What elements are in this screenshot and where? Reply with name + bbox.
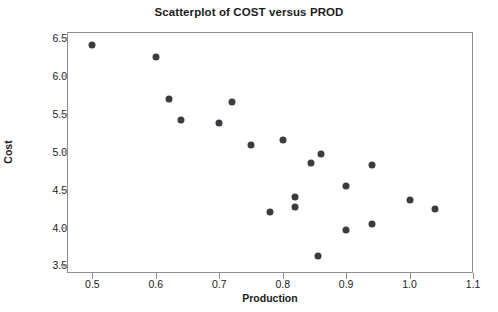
y-tick-mark bbox=[61, 227, 67, 228]
y-tick-mark bbox=[61, 75, 67, 76]
x-tick-label: 0.6 bbox=[136, 278, 176, 290]
plot-area-frame bbox=[67, 32, 473, 273]
y-axis-label: Cost bbox=[2, 140, 14, 163]
x-tick-label: 0.7 bbox=[199, 278, 239, 290]
scatterplot-figure: Scatterplot of COST versus PROD 3.54.04.… bbox=[0, 0, 498, 312]
x-tick-label: 0.5 bbox=[72, 278, 112, 290]
y-tick-mark bbox=[61, 189, 67, 190]
chart-title: Scatterplot of COST versus PROD bbox=[0, 6, 498, 18]
x-tick-mark bbox=[346, 273, 347, 279]
x-tick-label: 1.1 bbox=[453, 278, 493, 290]
x-tick-mark bbox=[156, 273, 157, 279]
x-tick-mark bbox=[410, 273, 411, 279]
x-tick-label: 0.8 bbox=[263, 278, 303, 290]
y-tick-mark bbox=[61, 151, 67, 152]
y-tick-mark bbox=[61, 113, 67, 114]
y-tick-mark bbox=[61, 265, 67, 266]
x-tick-mark bbox=[92, 273, 93, 279]
x-axis-label: Production bbox=[67, 292, 473, 304]
y-tick-mark bbox=[61, 38, 67, 39]
x-tick-mark bbox=[219, 273, 220, 279]
x-tick-label: 0.9 bbox=[326, 278, 366, 290]
x-tick-label: 1.0 bbox=[390, 278, 430, 290]
x-tick-mark bbox=[473, 273, 474, 279]
x-tick-mark bbox=[283, 273, 284, 279]
